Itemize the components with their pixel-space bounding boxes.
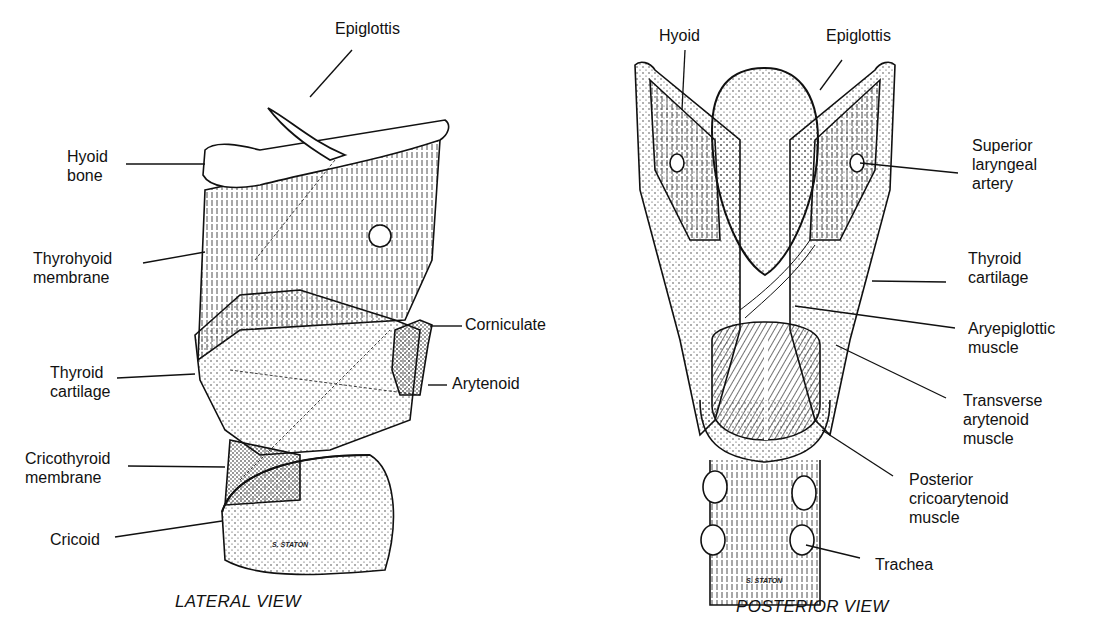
caption-lateral-view: LATERAL VIEW	[175, 592, 301, 612]
label-trachea: Trachea	[875, 555, 933, 574]
caption-posterior-view: POSTERIOR VIEW	[736, 597, 889, 617]
label-thyroid-cartilage-posterior: Thyroid cartilage	[968, 249, 1028, 287]
artist-signature-lateral: S. STATON	[272, 541, 308, 548]
label-superior-laryngeal-artery: Superior laryngeal artery	[972, 136, 1037, 193]
larynx-illustration	[0, 0, 1101, 642]
label-arytenoid: Arytenoid	[452, 374, 520, 393]
label-aryepiglottic-muscle: Aryepiglottic muscle	[968, 319, 1055, 357]
label-epiglottis-posterior: Epiglottis	[826, 26, 891, 45]
label-thyroid-cartilage-lateral: Thyroid cartilage	[50, 363, 110, 401]
label-hyoid-posterior: Hyoid	[659, 26, 700, 45]
artist-signature-posterior: S. STATON	[746, 577, 782, 584]
label-cricothyroid-membrane: Cricothyroid membrane	[25, 449, 110, 487]
label-posterior-cricoarytenoid-muscle: Posterior cricoarytenoid muscle	[909, 470, 1009, 527]
label-transverse-arytenoid-muscle: Transverse arytenoid muscle	[963, 391, 1042, 448]
label-cricoid: Cricoid	[50, 530, 100, 549]
posterior-view-drawing	[635, 62, 895, 605]
label-hyoid-bone: Hyoid bone	[67, 147, 108, 185]
label-corniculate: Corniculate	[465, 315, 546, 334]
label-epiglottis-lateral: Epiglottis	[335, 19, 400, 38]
label-thyrohyoid-membrane: Thyrohyoid membrane	[33, 249, 112, 287]
lateral-view-drawing	[195, 108, 449, 574]
